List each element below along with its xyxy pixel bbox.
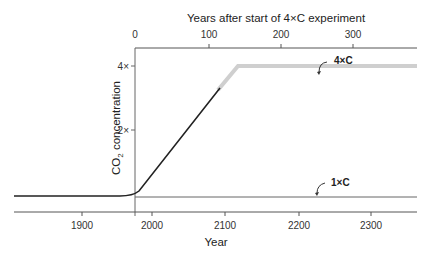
top-tick-300: 300: [345, 29, 362, 40]
y-axis: [131, 48, 135, 216]
top-tick-0: 0: [132, 29, 138, 40]
y-tick-4x: 4×: [118, 61, 130, 72]
x-tick-2300: 2300: [360, 220, 383, 231]
annotation-1xc-arrow: [317, 183, 325, 193]
x-axis-title: Year: [204, 236, 227, 248]
series-4xc-line: [218, 66, 417, 90]
annotation-4xc-label: 4×C: [334, 55, 353, 66]
annotation-1xc-label: 1×C: [331, 177, 350, 188]
top-tick-100: 100: [201, 29, 218, 40]
top-axis: [135, 44, 417, 48]
top-axis-title: Years after start of 4×C experiment: [187, 12, 366, 24]
top-tick-200: 200: [273, 29, 290, 40]
annotation-1xc-arrowhead: [315, 192, 319, 196]
x-tick-2200: 2200: [288, 220, 311, 231]
x-tick-1900: 1900: [71, 220, 94, 231]
x-tick-2000: 2000: [141, 220, 164, 231]
x-axis: [14, 212, 417, 216]
x-tick-2100: 2100: [214, 220, 237, 231]
annotation-4xc-arrowhead: [317, 71, 321, 75]
co2-chart: Years after start of 4×C experiment 0 10…: [0, 0, 431, 260]
